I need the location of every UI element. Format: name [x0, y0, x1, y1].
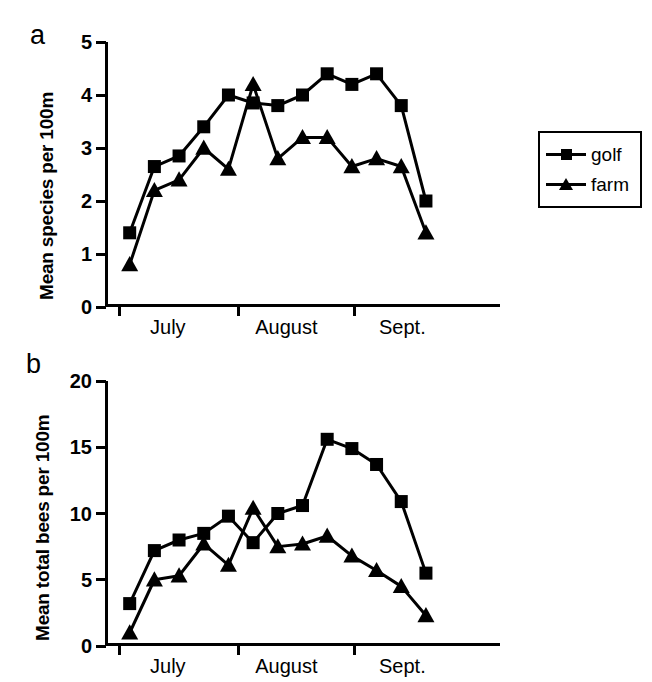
x-tick-mark — [118, 306, 121, 316]
data-point-golf — [296, 89, 309, 102]
panel-a-y-axis-title: Mean species per 100m — [36, 92, 58, 300]
triangle-marker-icon — [546, 176, 586, 192]
data-point-golf — [173, 534, 186, 547]
series-line-farm — [130, 508, 426, 633]
y-tick-label: 5 — [81, 32, 92, 52]
data-point-farm — [368, 562, 385, 577]
data-point-golf — [296, 499, 309, 512]
panel-a-label: a — [30, 22, 45, 49]
data-point-golf — [345, 442, 358, 455]
x-tick-label: August — [255, 316, 317, 339]
x-tick-label: Sept. — [379, 316, 426, 339]
x-tick-label: August — [255, 655, 317, 678]
data-point-golf — [419, 567, 432, 580]
y-tick-label: 3 — [81, 138, 92, 158]
data-point-golf — [271, 99, 284, 112]
x-tick-mark — [237, 306, 240, 316]
data-point-golf — [419, 195, 432, 208]
y-tick-label: 15 — [70, 437, 92, 457]
data-point-golf — [222, 510, 235, 523]
data-point-golf — [173, 149, 186, 162]
data-point-golf — [222, 89, 235, 102]
x-tick-label: Sept. — [379, 655, 426, 678]
y-tick-label: 10 — [70, 504, 92, 524]
data-point-golf — [148, 160, 161, 173]
data-point-farm — [368, 150, 385, 165]
x-tick-mark — [353, 645, 356, 655]
data-point-golf — [123, 226, 136, 239]
data-point-golf — [123, 597, 136, 610]
data-point-golf — [395, 495, 408, 508]
data-point-golf — [370, 67, 383, 80]
y-tick-label: 0 — [81, 297, 92, 317]
y-tick-label: 2 — [81, 191, 92, 211]
data-point-golf — [370, 458, 383, 471]
data-point-farm — [195, 140, 212, 155]
panel-b-series-layer — [105, 381, 500, 646]
x-tick-mark — [237, 645, 240, 655]
x-tick-mark — [118, 645, 121, 655]
panel-a-plot-area: 012345 JulyAugustSept. — [105, 42, 500, 307]
data-point-golf — [345, 78, 358, 91]
panel-b-plot-area: 05101520 JulyAugustSept. — [105, 381, 500, 646]
panel-a-legend-row-golf: golf — [546, 140, 630, 170]
panel-a-legend-row-farm: farm — [546, 170, 630, 200]
y-tick-label: 0 — [81, 636, 92, 656]
x-tick-label: July — [150, 316, 186, 339]
figure-root: a Mean species per 100m 012345 JulyAugus… — [0, 0, 652, 682]
x-tick-label: July — [150, 655, 186, 678]
data-point-farm — [121, 256, 138, 271]
panel-a: a Mean species per 100m 012345 JulyAugus… — [0, 0, 652, 341]
square-marker-icon — [546, 147, 586, 163]
data-point-farm — [245, 76, 262, 91]
panel-b-label: b — [26, 351, 41, 378]
x-tick-mark — [353, 306, 356, 316]
data-point-golf — [321, 67, 334, 80]
panel-b: b Mean total bees per 100m 05101520 July… — [0, 341, 652, 682]
y-tick-label: 4 — [81, 85, 92, 105]
data-point-golf — [148, 544, 161, 557]
y-tick-label: 5 — [81, 570, 92, 590]
panel-a-legend-label-golf: golf — [591, 145, 622, 164]
data-point-farm — [319, 528, 336, 543]
data-point-farm — [417, 224, 434, 239]
panel-b-y-axis-title: Mean total bees per 100m — [32, 415, 54, 641]
data-point-golf — [197, 120, 210, 133]
panel-a-legend-label-farm: farm — [591, 175, 629, 194]
data-point-golf — [321, 433, 334, 446]
data-point-golf — [271, 507, 284, 520]
data-point-farm — [245, 500, 262, 515]
y-tick-label: 1 — [81, 244, 92, 264]
y-tick-label: 20 — [70, 371, 92, 391]
data-point-farm — [393, 578, 410, 593]
data-point-golf — [247, 536, 260, 549]
panel-a-series-layer — [105, 42, 500, 307]
panel-a-legend: golf farm — [538, 131, 642, 208]
data-point-farm — [121, 624, 138, 639]
data-point-golf — [395, 99, 408, 112]
